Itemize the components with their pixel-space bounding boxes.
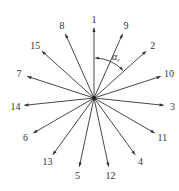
vector-arrow-2 [94, 51, 146, 98]
vector-arrow-10 [94, 76, 161, 98]
vector-label-9: 9 [124, 20, 129, 31]
vector-label-12: 12 [105, 170, 115, 181]
angle-label: αε [112, 51, 120, 63]
vector-arrow-7 [27, 76, 94, 98]
vector-label-5: 5 [75, 170, 80, 181]
star-vector-diagram: 192103114125136147158 αε [0, 0, 179, 191]
vector-label-10: 10 [164, 68, 174, 79]
vector-label-4: 4 [138, 156, 143, 167]
vector-label-1: 1 [92, 14, 97, 25]
vector-label-11: 11 [158, 132, 168, 143]
vector-arrow-8 [66, 34, 95, 98]
angle-annotation: αε [95, 51, 122, 71]
center-point [92, 96, 96, 100]
vector-label-13: 13 [43, 156, 53, 167]
vector-label-7: 7 [16, 68, 21, 79]
vector-label-14: 14 [10, 101, 20, 112]
vector-label-3: 3 [170, 101, 175, 112]
vector-label-15: 15 [30, 40, 40, 51]
vector-arrow-15 [42, 51, 94, 98]
vector-label-8: 8 [59, 20, 64, 31]
vector-label-6: 6 [23, 132, 28, 143]
vector-label-2: 2 [150, 40, 155, 51]
